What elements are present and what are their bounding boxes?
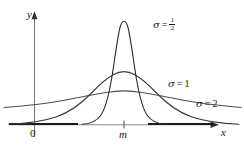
mean-tick-label: m [119, 129, 127, 140]
sigma-symbol: σ [153, 20, 160, 30]
equals-sign: = [162, 20, 168, 30]
sigma-value: 2 [212, 99, 217, 109]
curve-annotation-sigma-one: σ = 1 [168, 79, 189, 89]
normal-distribution-figure: y x 0 m σ = 1 2 σ = 1 σ = 2 [0, 0, 244, 153]
curve-sigma-half [82, 21, 166, 124]
x-axis-label: x [221, 127, 226, 138]
curve-annotation-sigma-two: σ = 2 [196, 99, 217, 109]
origin-tick-label: 0 [30, 128, 36, 139]
fraction-one-half: 1 2 [169, 17, 175, 33]
fraction-numerator: 1 [170, 17, 176, 24]
fraction-denominator: 2 [170, 25, 176, 32]
curve-annotation-sigma-half: σ = 1 2 [153, 17, 175, 33]
sigma-symbol: σ [168, 79, 175, 89]
sigma-value: 1 [184, 79, 189, 89]
equals-sign: = [177, 79, 183, 89]
sigma-symbol: σ [196, 99, 203, 109]
y-axis [32, 11, 38, 137]
equals-sign: = [205, 99, 211, 109]
y-axis-label: y [27, 9, 32, 20]
